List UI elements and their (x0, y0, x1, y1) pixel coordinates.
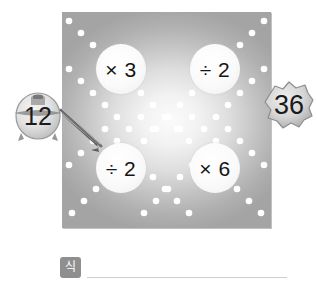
worksheet-canvas: × 3 ÷ 2 ÷ 2 × 6 (0, 0, 317, 289)
answer-row: 식 (60, 257, 300, 285)
operation-bubble-top-right[interactable]: ÷ 2 (190, 44, 240, 94)
operation-bubble-bottom-right[interactable]: × 6 (190, 143, 240, 193)
end-value-badge[interactable]: 36 (263, 80, 315, 130)
operation-label: ÷ 2 (200, 59, 231, 80)
arrow-pointer-icon (55, 106, 109, 154)
start-value-label: 12 (24, 104, 52, 129)
expression-tag: 식 (60, 257, 81, 278)
operation-label: ÷ 2 (106, 158, 137, 179)
answer-input-line[interactable] (87, 277, 287, 278)
operation-label: × 6 (199, 158, 230, 179)
operation-bubble-top-left[interactable]: × 3 (96, 44, 146, 94)
end-value-label: 36 (274, 92, 304, 119)
operation-label: × 3 (105, 59, 136, 80)
